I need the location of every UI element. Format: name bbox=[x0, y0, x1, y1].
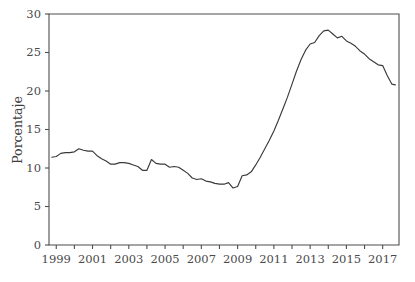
y-tick-label: 20 bbox=[26, 84, 41, 98]
x-tick-label: 2003 bbox=[114, 252, 143, 266]
x-axis-ticks: 1999200120032005200720092011201320152017 bbox=[42, 245, 398, 266]
axis-frame bbox=[49, 14, 399, 245]
data-line-porcentaje bbox=[52, 30, 396, 188]
y-tick-label: 5 bbox=[34, 199, 41, 213]
y-axis-title-label: Porcentaje bbox=[10, 96, 25, 164]
x-tick-label: 2007 bbox=[187, 252, 216, 266]
x-tick-label: 2017 bbox=[368, 252, 397, 266]
plot-frame bbox=[49, 14, 399, 245]
x-tick-label: 2013 bbox=[295, 252, 324, 266]
y-axis-ticks: 051015202530 bbox=[26, 7, 49, 252]
x-tick-label: 2015 bbox=[332, 252, 361, 266]
x-tick-label: 1999 bbox=[42, 252, 71, 266]
y-tick-label: 30 bbox=[26, 7, 41, 21]
y-tick-label: 10 bbox=[26, 161, 41, 175]
y-tick-label: 15 bbox=[26, 122, 41, 136]
x-tick-label: 2005 bbox=[150, 252, 179, 266]
x-tick-label: 2011 bbox=[259, 252, 288, 266]
x-tick-label: 2009 bbox=[223, 252, 252, 266]
y-tick-label: 25 bbox=[26, 45, 41, 59]
data-series-group bbox=[52, 30, 396, 188]
line-chart-svg: Porcentaje 051015202530 1999200120032005… bbox=[0, 0, 415, 282]
x-tick-label: 2001 bbox=[78, 252, 107, 266]
chart-figure: Porcentaje 051015202530 1999200120032005… bbox=[0, 0, 415, 282]
y-axis-title: Porcentaje bbox=[10, 96, 25, 164]
y-tick-label: 0 bbox=[34, 238, 41, 252]
